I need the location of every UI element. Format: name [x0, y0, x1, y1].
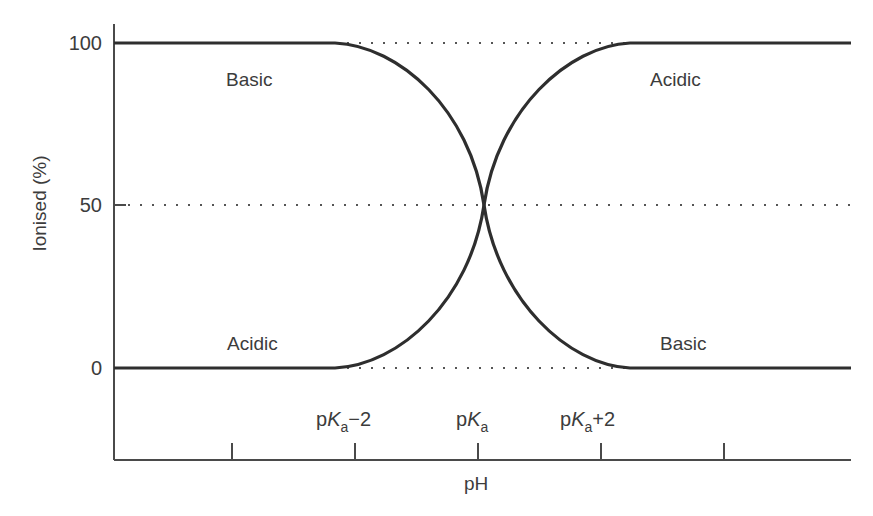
x-axis-label: pH	[464, 474, 488, 493]
annotation-top-right: Acidic	[650, 70, 701, 89]
y-tick-label-0: 0	[42, 358, 102, 378]
pk-k: K	[571, 408, 584, 430]
pk-prefix: p	[456, 408, 467, 430]
pk-suffix: +2	[592, 408, 615, 430]
pk-k: K	[467, 408, 480, 430]
x-tick-label-pka-minus-2: pKa−2	[316, 409, 371, 429]
pk-suffix: −2	[348, 408, 371, 430]
annotation-top-left: Basic	[226, 70, 272, 89]
y-tick-label-50: 50	[42, 195, 102, 215]
annotation-bottom-right: Basic	[660, 334, 706, 353]
pk-prefix: p	[316, 408, 327, 430]
pk-k: K	[327, 408, 340, 430]
pk-sub: a	[480, 419, 488, 435]
annotation-bottom-left: Acidic	[227, 334, 278, 353]
pk-prefix: p	[560, 408, 571, 430]
chart-canvas	[0, 0, 873, 516]
y-tick-label-100: 100	[42, 33, 102, 53]
x-tick-label-pka-plus-2: pKa+2	[560, 409, 615, 429]
x-tick-label-pka: pKa	[456, 409, 488, 429]
